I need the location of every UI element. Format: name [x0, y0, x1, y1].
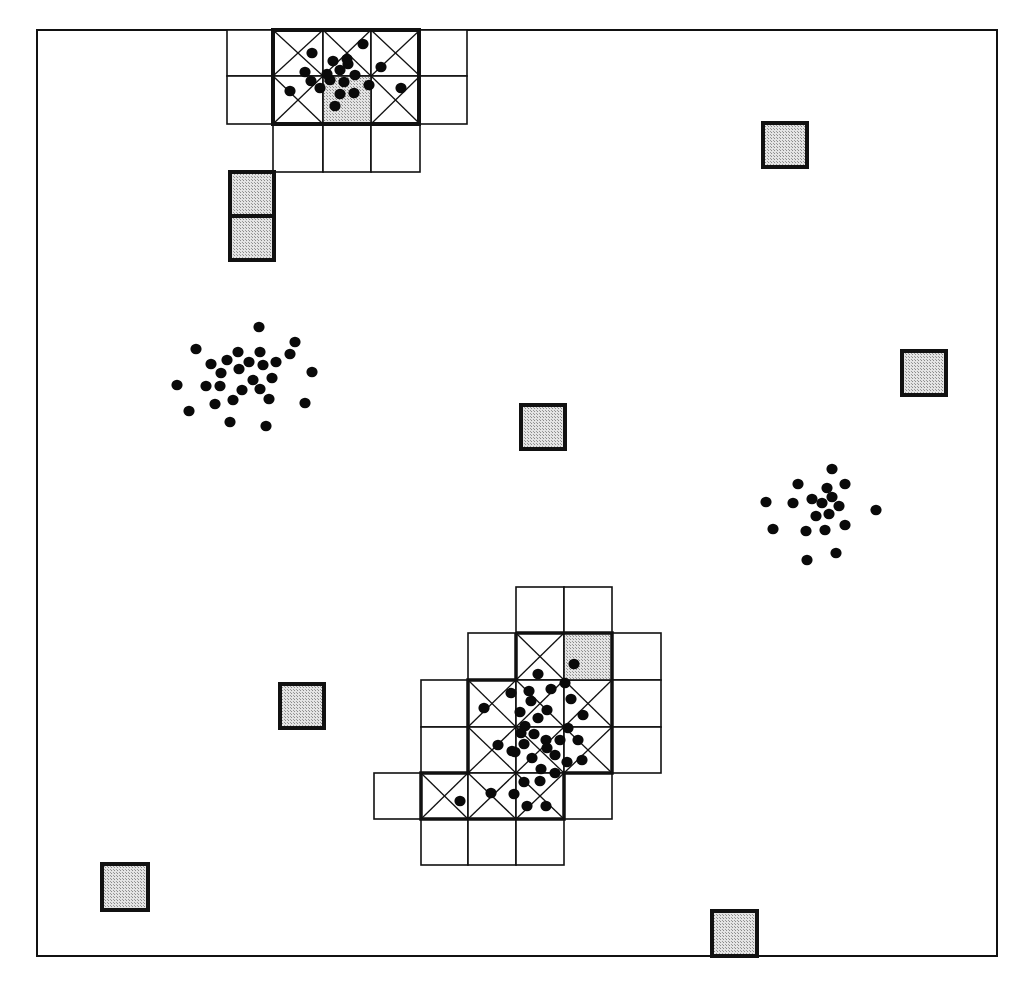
- data-point: [260, 421, 271, 431]
- data-point: [205, 359, 216, 369]
- plain-cell: [516, 587, 564, 633]
- data-point: [363, 80, 374, 90]
- data-point: [576, 755, 587, 765]
- data-point: [577, 710, 588, 720]
- data-point: [233, 364, 244, 374]
- data-point: [284, 349, 295, 359]
- data-point: [190, 344, 201, 354]
- plain-cell: [273, 124, 323, 172]
- plain-cell: [421, 680, 468, 727]
- data-point: [830, 548, 841, 558]
- data-point: [224, 417, 235, 427]
- data-point: [810, 511, 821, 521]
- plain-cell: [421, 819, 468, 865]
- data-point: [518, 739, 529, 749]
- data-point: [562, 723, 573, 733]
- data-point: [559, 678, 570, 688]
- data-point: [826, 464, 837, 474]
- plain-cell: [420, 30, 467, 76]
- data-point: [254, 347, 265, 357]
- data-point: [816, 498, 827, 508]
- data-point: [306, 48, 317, 58]
- data-point: [535, 764, 546, 774]
- data-point: [478, 703, 489, 713]
- data-point: [200, 381, 211, 391]
- plain-cell: [371, 124, 420, 172]
- data-point: [800, 526, 811, 536]
- plain-cell: [612, 680, 661, 727]
- data-point: [526, 753, 537, 763]
- data-point: [508, 789, 519, 799]
- shaded-square: [902, 351, 946, 395]
- data-point: [819, 525, 830, 535]
- data-point: [545, 684, 556, 694]
- data-point: [266, 373, 277, 383]
- crossed-cell: [468, 680, 516, 727]
- data-point: [357, 39, 368, 49]
- shaded-square: [280, 684, 324, 728]
- data-point: [321, 69, 332, 79]
- data-point: [306, 367, 317, 377]
- data-point: [305, 76, 316, 86]
- shaded-square: [230, 172, 274, 216]
- grid-cluster-diagram: [0, 0, 1026, 988]
- data-point: [515, 728, 526, 738]
- data-point: [821, 483, 832, 493]
- data-point: [534, 776, 545, 786]
- plain-cell: [468, 633, 516, 680]
- data-point: [334, 65, 345, 75]
- data-point: [485, 788, 496, 798]
- data-point: [760, 497, 771, 507]
- shaded-square: [712, 911, 757, 956]
- data-point: [826, 492, 837, 502]
- data-point: [338, 77, 349, 87]
- shaded-square: [763, 123, 807, 167]
- data-point: [833, 501, 844, 511]
- data-point: [532, 669, 543, 679]
- data-point: [243, 357, 254, 367]
- data-point: [375, 62, 386, 72]
- grid-cells: [227, 30, 661, 865]
- data-point: [492, 740, 503, 750]
- data-point: [554, 735, 565, 745]
- data-point: [572, 735, 583, 745]
- data-point: [395, 83, 406, 93]
- data-point: [299, 67, 310, 77]
- plain-cell: [612, 633, 661, 680]
- data-point: [215, 368, 226, 378]
- plain-cell: [420, 76, 467, 124]
- data-point: [792, 479, 803, 489]
- shaded-square: [521, 405, 565, 449]
- data-point: [767, 524, 778, 534]
- data-point: [299, 398, 310, 408]
- plain-cell: [564, 773, 612, 819]
- data-point: [518, 777, 529, 787]
- data-point: [263, 394, 274, 404]
- data-point: [532, 713, 543, 723]
- data-point: [505, 688, 516, 698]
- data-point: [806, 494, 817, 504]
- crossed-cell: [564, 727, 612, 773]
- data-point: [839, 479, 850, 489]
- data-point: [209, 399, 220, 409]
- data-point: [561, 757, 572, 767]
- data-point: [839, 520, 850, 530]
- data-point: [509, 747, 520, 757]
- plain-cell: [323, 124, 371, 172]
- data-point: [314, 83, 325, 93]
- data-point: [341, 54, 352, 64]
- data-point: [254, 384, 265, 394]
- data-point: [528, 729, 539, 739]
- data-point: [541, 705, 552, 715]
- data-point: [523, 686, 534, 696]
- data-point: [289, 337, 300, 347]
- left-cluster: [171, 322, 317, 431]
- data-point: [257, 360, 268, 370]
- data-point: [801, 555, 812, 565]
- data-point: [521, 801, 532, 811]
- data-point: [540, 801, 551, 811]
- data-point: [183, 406, 194, 416]
- data-point: [270, 357, 281, 367]
- data-point: [549, 768, 560, 778]
- data-point: [253, 322, 264, 332]
